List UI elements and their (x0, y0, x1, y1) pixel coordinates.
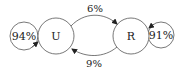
edge-u-to-r: 6% (71, 3, 117, 26)
self-loop-r-label: 91% (149, 29, 173, 42)
node-u-label: U (51, 30, 60, 43)
node-r: R (113, 18, 149, 54)
self-loop-u: 94% (10, 22, 38, 50)
edge-r-to-u: 9% (72, 47, 117, 69)
state-diagram: 94% U 91% R 6% 9% (0, 0, 186, 72)
self-loop-u-label: 94% (12, 30, 36, 43)
edge-u-to-r-label: 6% (87, 3, 103, 14)
node-u: U (38, 18, 74, 54)
edge-r-to-u-label: 9% (86, 58, 102, 69)
node-r-label: R (127, 30, 136, 43)
self-loop-r: 91% (148, 22, 174, 48)
